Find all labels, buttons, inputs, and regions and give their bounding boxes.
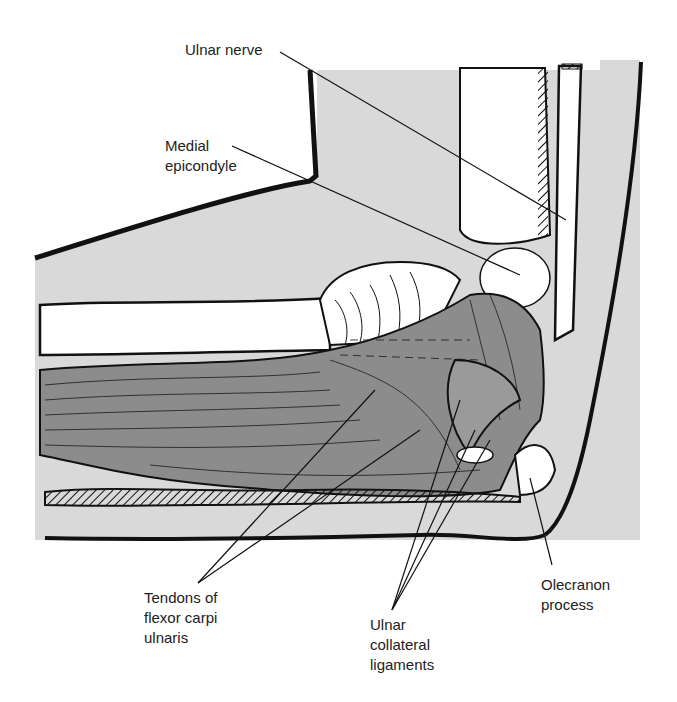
- label-line: Ulnar nerve: [185, 40, 263, 60]
- label-ulnar-collateral-ligaments: Ulnar collateral ligaments: [370, 615, 434, 675]
- label-line: Olecranon: [541, 575, 610, 595]
- label-line: process: [541, 595, 610, 615]
- label-tendons-flexor-carpi-ulnaris: Tendons of flexor carpi ulnaris: [144, 588, 217, 648]
- label-line: ulnaris: [144, 628, 217, 648]
- label-ulnar-nerve: Ulnar nerve: [185, 40, 263, 60]
- label-olecranon-process: Olecranon process: [541, 575, 610, 615]
- label-line: ligaments: [370, 655, 434, 675]
- label-line: Medial: [165, 136, 237, 156]
- label-line: Ulnar: [370, 615, 434, 635]
- label-line: Tendons of: [144, 588, 217, 608]
- label-medial-epicondyle: Medial epicondyle: [165, 136, 237, 176]
- label-line: collateral: [370, 635, 434, 655]
- humerus-bone: [460, 68, 550, 244]
- label-line: flexor carpi: [144, 608, 217, 628]
- label-line: epicondyle: [165, 156, 237, 176]
